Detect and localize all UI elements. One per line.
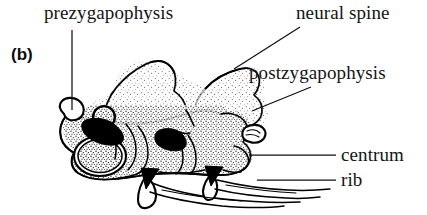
vertebrae-illustration <box>0 0 427 215</box>
label-neural-spine: neural spine <box>296 3 390 22</box>
label-rib: rib <box>341 170 362 189</box>
rib-shapes <box>138 174 330 208</box>
vertebral-column-body <box>58 58 276 189</box>
panel-label-b: (b) <box>11 45 33 65</box>
label-centrum: centrum <box>341 145 404 164</box>
anatomical-figure: (b) prezygapophysis neural spine postzyg… <box>0 0 427 215</box>
label-prezygapophysis: prezygapophysis <box>44 3 173 22</box>
label-postzygapophysis: postzygapophysis <box>249 63 386 82</box>
